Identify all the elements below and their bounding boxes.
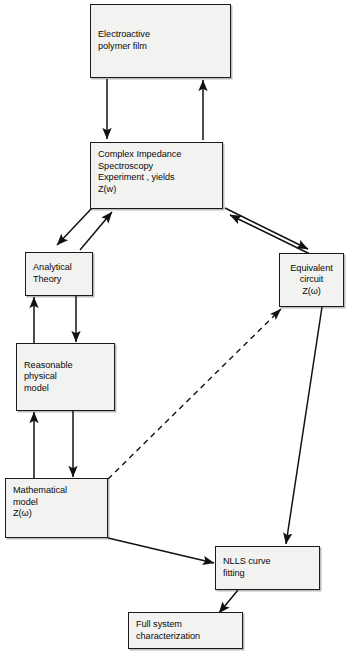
node-line: model — [24, 383, 107, 395]
edge-mathematical-model-to-equivalent-circuit — [108, 309, 281, 479]
figure-caption — [0, 646, 351, 654]
edge-equivalent-circuit-to-experiment — [230, 215, 312, 255]
node-line: polymer film — [98, 41, 223, 53]
node-mathematical-model[interactable]: Mathematical model Z(ω) — [5, 478, 108, 538]
node-analytical-theory[interactable]: Analytical Theory — [25, 252, 93, 296]
node-line: circuit — [300, 274, 324, 286]
node-equivalent-circuit[interactable]: Equivalent circuit Z(ω) — [279, 253, 344, 307]
node-line: Theory — [33, 274, 85, 286]
node-nlls-curve-fitting[interactable]: NLLS curve fitting — [215, 546, 320, 590]
node-line: model — [13, 497, 100, 509]
node-line: fitting — [223, 568, 312, 580]
node-full-system-characterization[interactable]: Full system characterization — [128, 612, 243, 649]
edge-experiment-to-equivalent-circuit — [225, 208, 308, 249]
node-line: Z(ω) — [302, 286, 321, 298]
edge-mathematical-model-to-nlls — [108, 538, 214, 563]
node-line: Experiment , yields — [98, 172, 215, 184]
edge-analytical-theory-to-experiment — [80, 212, 112, 250]
node-line: NLLS curve — [223, 556, 312, 568]
node-line: Electroactive — [98, 29, 223, 41]
node-line: Equivalent — [290, 263, 332, 275]
node-complex-impedance-spectroscopy[interactable]: Complex Impedance Spectroscopy Experimen… — [90, 142, 223, 209]
node-line: Analytical — [33, 262, 85, 274]
edge-experiment-to-analytical-theory — [57, 208, 92, 245]
node-reasonable-physical-model[interactable]: Reasonable physical model — [16, 343, 115, 411]
node-line: characterization — [136, 631, 235, 643]
flowchart-diagram: Electroactive polymer film Complex Imped… — [0, 0, 351, 654]
edge-equivalent-circuit-to-nlls — [286, 307, 322, 544]
node-line: Mathematical — [13, 485, 100, 497]
node-line: Z(w) — [98, 184, 215, 196]
node-electroactive-polymer-film[interactable]: Electroactive polymer film — [90, 4, 231, 78]
node-line: Z(ω) — [13, 508, 100, 520]
node-line: physical — [24, 371, 107, 383]
node-line: Reasonable — [24, 360, 107, 372]
node-line: Spectroscopy — [98, 161, 215, 173]
node-line: Complex Impedance — [98, 149, 215, 161]
edge-nlls-to-full-system — [219, 590, 238, 613]
node-line: Full system — [136, 619, 235, 631]
